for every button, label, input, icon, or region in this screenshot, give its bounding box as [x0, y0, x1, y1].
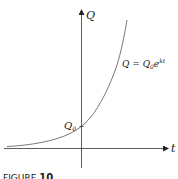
intercept-label: Q0 [64, 120, 76, 132]
x-axis-label: t [171, 142, 176, 155]
y-axis-label: Q [86, 9, 95, 22]
figure-caption: FIGURE10 [3, 172, 53, 179]
curve-equation-label: Q = Q0ekt [122, 57, 166, 70]
exponential-growth-chart: Q t Q0 Q = Q0ekt FIGURE10 [0, 0, 178, 179]
